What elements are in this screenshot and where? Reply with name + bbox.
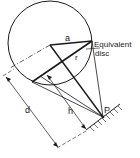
d-dimension-line <box>6 77 58 147</box>
h-arrow-top <box>47 75 52 80</box>
label-equivalent: Equivalent <box>94 40 132 49</box>
label-disc: disc <box>95 49 109 58</box>
equivalent-disc-diagram: a r Equivalent disc d h P <box>0 0 140 158</box>
centre-line <box>10 45 50 68</box>
label-d: d <box>25 105 30 115</box>
point-p <box>102 116 105 119</box>
label-r: r <box>75 53 78 62</box>
h-arrow-bottom <box>81 124 86 129</box>
label-a: a <box>65 33 70 43</box>
d-arrow-top <box>6 77 11 82</box>
d-extension-bottom <box>57 131 86 148</box>
label-h: h <box>68 106 73 116</box>
diagram-canvas: a r Equivalent disc d h P <box>0 0 140 158</box>
d-extension-top <box>3 69 14 76</box>
label-p: P <box>104 105 110 115</box>
d-arrow-bottom <box>53 142 58 147</box>
